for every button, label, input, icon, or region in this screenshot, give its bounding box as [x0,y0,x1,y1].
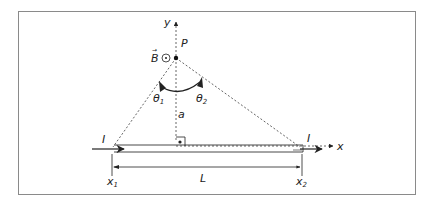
line-p-to-x2 [176,58,300,147]
line-p-to-x1 [113,58,176,147]
point-p [174,56,178,60]
y-axis-label: y [163,16,171,29]
theta-arc [162,82,200,91]
point-p-label: P [181,37,188,50]
field-label: B [151,52,159,65]
distance-label: a [178,108,185,121]
theta2-arrowhead [197,77,203,88]
x2-label: x2 [295,175,308,189]
current-label-left: I [102,133,105,146]
x1-label: x1 [106,175,118,189]
theta1-label: θ1 [153,92,164,106]
current-label-right: I [307,132,310,145]
diagram-canvas: y x I I P B → θ1 θ2 a L x1 x2 [0,0,435,207]
theta1-arrowhead [159,81,166,92]
theta2-label: θ2 [196,92,208,106]
field-out-of-page-icon [162,54,170,62]
length-label: L [200,172,206,185]
x-axis-label: x [336,140,344,153]
length-arrow-left [113,165,119,169]
field-vector-mark: → [152,46,157,53]
